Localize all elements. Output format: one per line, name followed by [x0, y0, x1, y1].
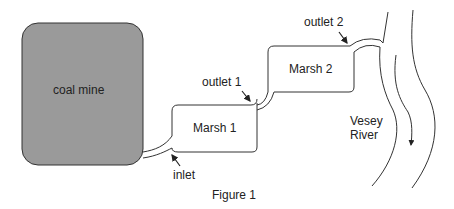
inlet-arrow — [172, 155, 180, 166]
outlet2-channel — [350, 39, 383, 46]
inlet-channel — [143, 136, 172, 152]
marsh1-label: Marsh 1 — [193, 121, 236, 135]
figure-caption: Figure 1 — [212, 188, 256, 202]
coal-mine-label: coal mine — [53, 83, 104, 97]
outlet2-label: outlet 2 — [304, 15, 343, 29]
river-label-line1: Vesey — [350, 114, 383, 128]
outlet1-label: outlet 1 — [202, 75, 241, 89]
outlet1-channel — [257, 92, 268, 105]
outlet2-arrow — [339, 32, 347, 43]
inlet-label: inlet — [173, 168, 195, 182]
river-right-bank — [412, 10, 435, 188]
marsh2-label: Marsh 2 — [289, 62, 332, 76]
diagram-canvas — [0, 0, 454, 209]
river-left-bank — [372, 12, 397, 186]
river-label-line2: River — [350, 128, 378, 142]
outlet1-arrow — [242, 91, 250, 101]
river-flow-arrow — [395, 55, 412, 145]
